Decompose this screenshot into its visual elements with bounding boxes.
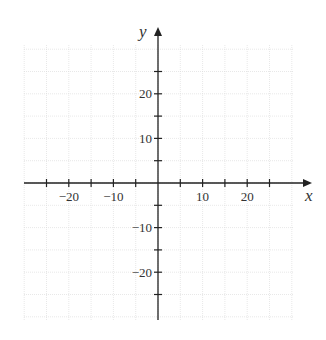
x-tick-label: −20 [59, 189, 79, 204]
y-axis-arrow-icon [154, 27, 162, 36]
y-tick-label: 10 [139, 131, 152, 146]
x-axis-label: x [304, 186, 313, 205]
x-tick-label: 20 [241, 189, 254, 204]
y-axis-label: y [137, 22, 147, 41]
axes [24, 27, 312, 320]
y-tick-label: 20 [139, 86, 152, 101]
x-tick-label: 10 [196, 189, 209, 204]
coordinate-plane: −20−1010202010−10−20 x y [0, 0, 326, 340]
x-tick-label: −10 [103, 189, 123, 204]
y-tick-label: −20 [132, 265, 152, 280]
y-tick-label: −10 [132, 220, 152, 235]
